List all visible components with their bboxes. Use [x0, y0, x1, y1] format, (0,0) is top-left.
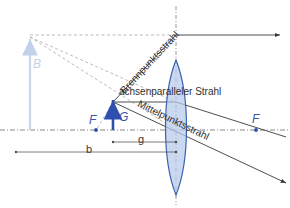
label-focal-point-right: F [252, 112, 259, 126]
ray-focal-back-extension [96, 102, 113, 130]
optics-ray-diagram: achsenparalleler Strahl Brennpunktsstrah… [0, 0, 290, 208]
label-object-distance-g: g [138, 133, 144, 145]
label-object-height-G: G [119, 110, 128, 124]
label-image-distance-b: b [86, 143, 92, 155]
label-achsenparalleler-strahl: achsenparalleler Strahl [119, 86, 221, 97]
label-focal-point-left: F [89, 113, 96, 127]
focal-point-left-marker [94, 128, 98, 132]
focal-point-right-marker [254, 128, 258, 132]
label-image-height-B: B [33, 57, 41, 71]
